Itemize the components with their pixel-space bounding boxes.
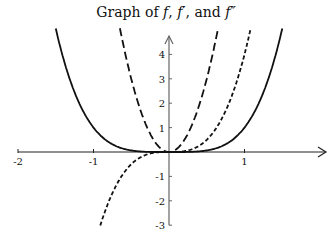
x-tick-label: -2 bbox=[13, 156, 23, 167]
y-tick-label: 2 bbox=[159, 98, 165, 109]
y-tick-label: 1 bbox=[159, 123, 165, 134]
series-f′ bbox=[100, 29, 250, 225]
plot-area: -2-11-3-2-11234 bbox=[0, 0, 332, 247]
x-tick-label: 1 bbox=[241, 156, 247, 167]
y-tick-label: 4 bbox=[159, 49, 165, 60]
y-tick-label: -2 bbox=[155, 196, 165, 207]
x-tick-label: -1 bbox=[89, 156, 99, 167]
y-tick-label: 3 bbox=[159, 74, 165, 85]
y-tick-label: -3 bbox=[155, 220, 165, 231]
axes: -2-11-3-2-11234 bbox=[13, 36, 326, 231]
y-tick-label: -1 bbox=[155, 171, 165, 182]
